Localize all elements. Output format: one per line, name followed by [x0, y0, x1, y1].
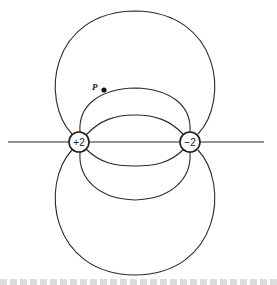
- inner-upper-field-line: [86, 115, 184, 135]
- middle-lower-field-line: [80, 152, 190, 200]
- negative-charge-label: −2: [184, 137, 196, 148]
- inner-lower-field-line: [86, 149, 184, 166]
- positive-charge: +2: [69, 132, 89, 152]
- negative-charge: −2: [180, 132, 200, 152]
- point-p-label: P: [92, 82, 98, 92]
- cropped-caption: [0, 279, 277, 285]
- point-p-marker: [101, 87, 106, 92]
- positive-charge-label: +2: [73, 137, 85, 148]
- field-line-diagram: +2 −2 P: [0, 0, 277, 285]
- outer-lower-field-line: [55, 150, 215, 275]
